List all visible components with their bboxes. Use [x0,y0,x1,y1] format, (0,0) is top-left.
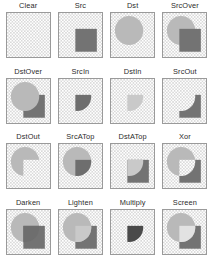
composite-cell-lighten: Lighten [54,198,106,264]
composite-swatch-multiply [110,209,155,255]
composite-swatch-dst-atop [110,143,155,189]
composite-cell-dst-atop: DstATop [107,132,159,198]
composite-swatch-dst [110,12,155,58]
composite-swatch-dst-in [110,78,155,124]
composite-cell-dst-out: DstOut [2,132,54,198]
composite-cell-src: Src [54,1,106,67]
composite-cell-label: Darken [16,198,40,207]
composite-cell-label: DstIn [124,67,142,76]
composite-cell-label: Multiply [120,198,146,207]
composite-cell-label: Xor [179,132,191,141]
composite-swatch-src-over [162,12,207,58]
composite-swatch-darken [6,209,51,255]
composite-swatch-src-in [58,78,103,124]
composite-cell-label: Clear [19,1,37,10]
composite-cell-label: SrcATop [66,132,94,141]
composite-cell-screen: Screen [159,198,211,264]
composite-swatch-screen [162,209,207,255]
composite-cell-label: Src [75,1,86,10]
composite-cell-label: SrcOut [173,67,197,76]
composite-cell-darken: Darken [2,198,54,264]
composite-cell-label: SrcIn [72,67,90,76]
composite-modes-grid: ClearSrcDstSrcOverDstOverSrcInDstInSrcOu… [0,0,213,265]
composite-cell-label: Lighten [68,198,93,207]
composite-cell-label: DstOut [16,132,40,141]
composite-cell-label: Dst [127,1,138,10]
composite-cell-label: DstATop [119,132,147,141]
composite-cell-src-atop: SrcATop [54,132,106,198]
composite-cell-dst-over: DstOver [2,67,54,133]
composite-swatch-dst-out [6,143,51,189]
composite-swatch-clear [6,12,51,58]
composite-swatch-src-atop [58,143,103,189]
composite-cell-multiply: Multiply [107,198,159,264]
composite-cell-src-over: SrcOver [159,1,211,67]
composite-swatch-dst-over [6,78,51,124]
composite-cell-dst-in: DstIn [107,67,159,133]
composite-swatch-xor [162,143,207,189]
composite-cell-label: SrcOver [171,1,199,10]
composite-cell-label: DstOver [14,67,42,76]
composite-cell-xor: Xor [159,132,211,198]
composite-swatch-lighten [58,209,103,255]
composite-cell-src-out: SrcOut [159,67,211,133]
composite-cell-clear: Clear [2,1,54,67]
composite-swatch-src-out [162,78,207,124]
composite-swatch-src [58,12,103,58]
composite-cell-label: Screen [173,198,197,207]
composite-cell-dst: Dst [107,1,159,67]
composite-cell-src-in: SrcIn [54,67,106,133]
